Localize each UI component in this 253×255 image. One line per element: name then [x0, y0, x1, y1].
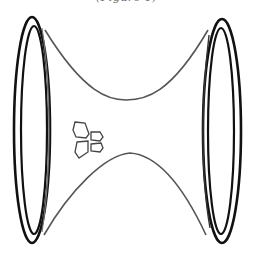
left-end-rim: [14, 17, 50, 243]
spool-diagram: [0, 0, 253, 255]
four-button-pad-icon: [73, 122, 103, 158]
upper-body-curve: [45, 30, 208, 100]
lower-body-curve: [44, 153, 206, 235]
right-end-rim: [203, 19, 241, 243]
